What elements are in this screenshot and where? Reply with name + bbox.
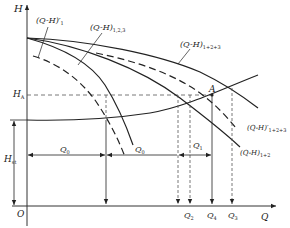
leader-qh-123 [78, 33, 102, 65]
span-label-q1: Q1 [193, 141, 203, 151]
curve-label-qh-123: (Q-H)1,2,3 [90, 23, 126, 33]
curve-label-qh-1p2: (Q-H)1+2 [240, 149, 271, 158]
span-label-q0-middle: Q0 [135, 145, 145, 155]
axes: H Q O [12, 3, 276, 226]
curve-qh-123 [27, 38, 133, 145]
curve-label-qh-prime-1: (Q-H)′1 [36, 16, 64, 26]
tick-label-q2: Q2 [184, 211, 194, 221]
origin-label: O [17, 209, 25, 219]
x-axis-label: Q [261, 212, 269, 222]
y-axis-label: H [13, 3, 23, 14]
curve-qh-prime-1 [33, 56, 125, 157]
curve-qh-1p2p3 [27, 38, 258, 108]
tick-label-q3: Q3 [228, 211, 238, 221]
span-label-q0-left: Q0 [60, 145, 70, 155]
ha-label: HA [12, 89, 25, 100]
hst-label: Hst [3, 154, 16, 165]
tick-label-q4: Q4 [207, 211, 217, 221]
point-a-label: A [208, 84, 216, 94]
leader-qh-prime-1 [38, 27, 48, 58]
pump-parallel-operation-diagram: H Q O HA Hst A Q0 Q0 Q1 Q2 [0, 0, 290, 228]
leader-qh-1p2p3 [178, 49, 190, 64]
curve-label-qh-1p2p3: (Q-H)1+2+3 [180, 40, 221, 50]
curve-label-qh-prime-1p2p3: (Q-H)′1+2+3 [247, 124, 286, 133]
